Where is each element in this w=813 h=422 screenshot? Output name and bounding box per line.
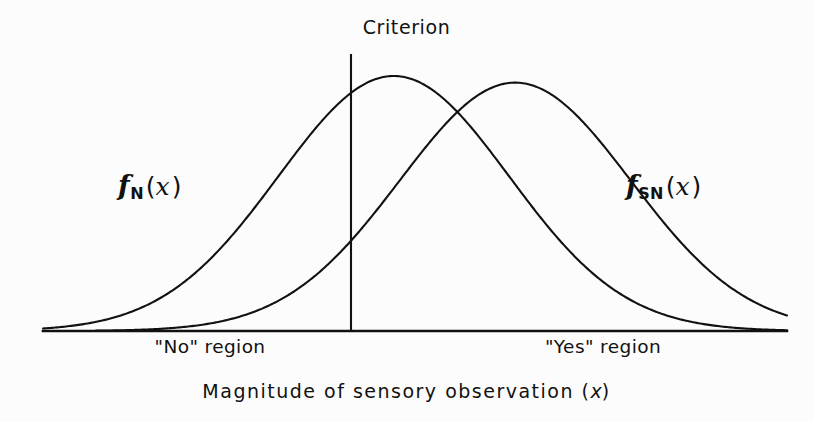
signal-function-close-paren: ) bbox=[692, 172, 702, 201]
noise-function-open-paren: ( bbox=[146, 172, 156, 201]
signal-function-f: f bbox=[626, 170, 638, 201]
signal-function-label: fSN(x) bbox=[626, 172, 701, 202]
signal-function-argument: x bbox=[675, 172, 689, 201]
noise-function-close-paren: ) bbox=[172, 172, 182, 201]
yes-region-label: "Yes" region bbox=[393, 338, 813, 357]
no-region-label: "No" region bbox=[0, 338, 420, 357]
noise-function-label: fN(x) bbox=[118, 172, 181, 202]
noise-function-f: f bbox=[118, 170, 130, 201]
noise-function-argument: x bbox=[156, 172, 170, 201]
signal-function-open-paren: ( bbox=[666, 172, 676, 201]
criterion-label: Criterion bbox=[0, 18, 813, 37]
x-axis-caption-prefix: Magnitude of sensory observation ( bbox=[202, 380, 590, 402]
x-axis-caption-variable: x bbox=[590, 380, 601, 402]
noise-distribution-curve bbox=[43, 76, 787, 330]
sdt-figure: Criterion fN(x) fSN(x) "No" region "Yes"… bbox=[0, 0, 813, 422]
signal-function-subscript: SN bbox=[638, 184, 664, 203]
x-axis-caption-suffix: ) bbox=[602, 380, 611, 402]
signal-noise-distribution-curve bbox=[96, 83, 787, 331]
noise-function-subscript: N bbox=[130, 184, 144, 203]
distribution-plot bbox=[0, 0, 813, 422]
x-axis-caption: Magnitude of sensory observation (x) bbox=[0, 382, 813, 401]
